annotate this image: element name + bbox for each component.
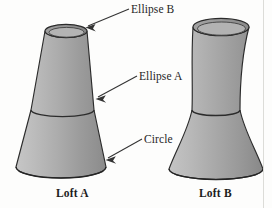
loft-a-solid — [16, 24, 106, 178]
leader-line-ellipse-a — [98, 76, 137, 97]
caption-loft-a: Loft A — [56, 187, 89, 199]
page-rule-right — [263, 0, 264, 208]
callout-label-ellipse-b: Ellipse B — [131, 3, 174, 15]
loft-b-top-ellipse-b-inner — [198, 22, 246, 35]
loft-figure-drawing — [0, 0, 272, 208]
loft-comparison-figure: Ellipse B Ellipse A Circle Loft A Loft B — [0, 0, 272, 208]
leader-line-circle — [108, 139, 142, 158]
caption-loft-b: Loft B — [199, 187, 232, 199]
callout-label-circle: Circle — [144, 133, 173, 145]
loft-a-body — [16, 31, 106, 178]
loft-b-body — [169, 27, 263, 180]
arrowhead-circle — [106, 156, 117, 164]
loft-a-top-ellipse-b-inner — [49, 27, 84, 37]
leader-line-ellipse-b — [88, 9, 129, 26]
arrowhead-ellipse-a — [96, 95, 107, 103]
loft-b-solid — [169, 18, 263, 179]
callout-label-ellipse-a: Ellipse A — [139, 70, 182, 82]
